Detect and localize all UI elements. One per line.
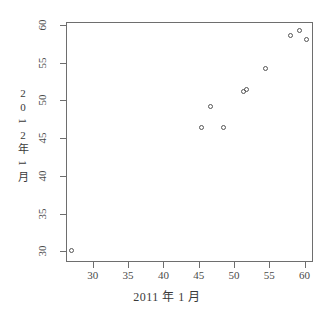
data-point [221,125,226,130]
y-axis-tick-label: 45 [32,128,60,148]
x-axis-tick [163,262,164,268]
y-axis-tick [60,25,66,26]
y-axis-tick [60,251,66,252]
data-point [208,104,213,109]
x-axis-tick-label: 60 [285,269,325,282]
y-axis-tick-label: 50 [32,90,60,110]
data-point [69,248,74,253]
y-axis-tick-label: 60 [32,15,60,35]
y-axis-tick [60,214,66,215]
data-point [297,28,302,33]
y-axis-title-char: 2 [14,86,32,100]
data-point [199,125,204,130]
y-axis-tick [60,176,66,177]
data-point [244,87,249,92]
x-axis-tick [234,262,235,268]
y-axis-tick [60,100,66,101]
chart-screenshot: 2011 年 1 月 2012年1月 303540455055603035404… [0,0,334,311]
y-axis-tick-label: 40 [32,166,60,186]
data-point [304,37,309,42]
y-axis-title-char: 1 [16,112,30,130]
y-axis-title-char: 2 [14,128,32,142]
data-point [263,66,268,71]
y-axis-tick [60,138,66,139]
x-axis-tick-label: 30 [73,269,113,282]
data-point [288,33,293,38]
scatter-data-layer [67,23,312,261]
y-axis-tick-label: 35 [32,204,60,224]
x-axis-tick-label: 45 [179,269,219,282]
y-axis-title-char: 月 [14,170,32,184]
y-axis-tick [60,63,66,64]
x-axis-tick-label: 50 [214,269,254,282]
plot-frame [66,22,313,262]
x-axis-tick-label: 40 [143,269,183,282]
x-axis-tick [128,262,129,268]
x-axis-tick [269,262,270,268]
y-axis-tick-label: 55 [32,53,60,73]
x-axis-title: 2011 年 1 月 [0,287,334,305]
x-axis-tick [305,262,306,268]
x-axis-tick-label: 35 [108,269,148,282]
x-axis-tick [199,262,200,268]
x-axis-tick-label: 55 [249,269,289,282]
y-axis-title-char: 1 [16,154,30,172]
y-axis-tick-label: 30 [32,241,60,261]
x-axis-tick [93,262,94,268]
y-axis-title: 2012年1月 [14,86,32,184]
